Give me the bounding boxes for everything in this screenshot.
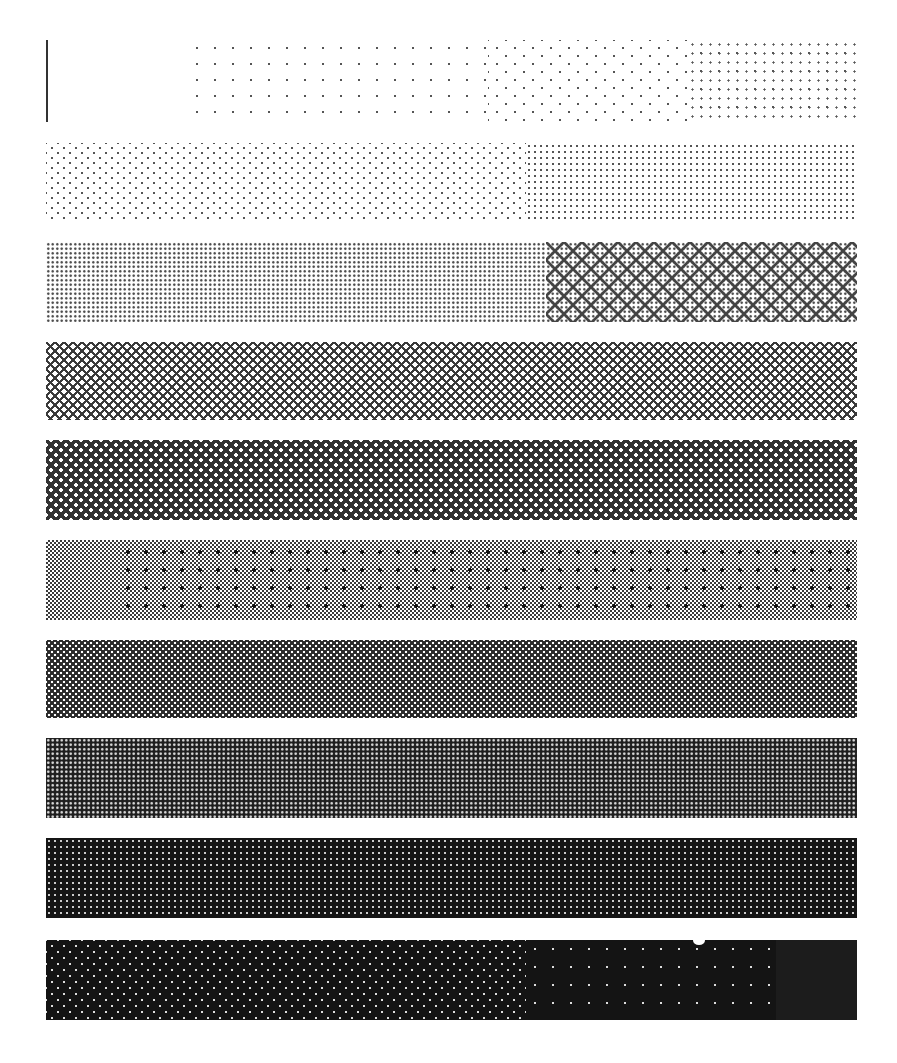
band-2-segment-grid [526,143,857,222]
dither-band-3 [46,242,857,322]
band-6-dark-dots [116,540,857,620]
band-3-segment-x-marks [546,242,857,322]
band-1-segment-offset [488,40,688,122]
band-10-segment-sparse [526,940,776,1020]
dither-band-5 [46,440,857,520]
band-10-segment-dots [46,940,526,1020]
calibration-line [46,40,48,122]
band-10-segment-solid [776,940,857,1020]
band-3-segment-grid [46,242,546,322]
dither-band-8 [46,738,857,818]
dither-band-10 [46,940,857,1020]
dither-band-7 [46,640,857,718]
dither-band-6 [46,540,857,620]
dither-band-1 [188,40,857,122]
dither-band-2 [46,143,857,222]
band-1-segment-sparse [188,40,488,122]
dither-band-4 [46,342,857,420]
print-artifact-spot [693,936,705,945]
dither-band-9 [46,838,857,918]
band-2-segment-diamond [46,143,526,222]
band-1-segment-dense [688,40,857,122]
